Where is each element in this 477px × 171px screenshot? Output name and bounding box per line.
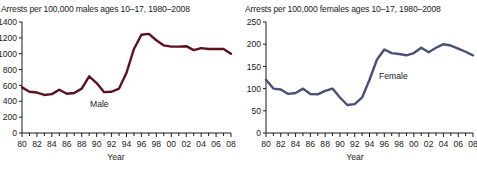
x-tick-label: 08 xyxy=(468,139,477,149)
x-tick-label: 04 xyxy=(196,139,206,149)
x-tick-label: 00 xyxy=(409,139,419,149)
x-axis-label-male: Year xyxy=(0,152,232,162)
x-tick-label: 88 xyxy=(77,139,87,149)
x-tick-label: 86 xyxy=(62,139,72,149)
x-tick-label: 02 xyxy=(424,139,434,149)
x-tick-label: 84 xyxy=(291,139,301,149)
y-tick-label: 1000 xyxy=(0,49,17,59)
y-tick-label: 800 xyxy=(3,65,18,75)
y-tick-label: 1200 xyxy=(0,33,17,43)
data-line xyxy=(22,34,231,95)
series-annotation-female: Female xyxy=(379,71,408,81)
x-tick-label: 06 xyxy=(453,139,463,149)
y-tick-label: 250 xyxy=(247,17,262,27)
x-tick-label: 98 xyxy=(394,139,404,149)
x-tick-label: 82 xyxy=(276,139,286,149)
x-tick-label: 92 xyxy=(107,139,117,149)
y-tick-label: 1400 xyxy=(0,17,17,27)
x-tick-label: 96 xyxy=(380,139,390,149)
x-tick-label: 80 xyxy=(17,139,27,149)
x-tick-label: 04 xyxy=(439,139,449,149)
chart-panel-female: Arrests per 100,000 females ages 10–17, … xyxy=(236,0,477,171)
y-tick-label: 150 xyxy=(247,62,262,72)
x-tick-label: 98 xyxy=(152,139,162,149)
series-annotation-male: Male xyxy=(90,99,109,109)
x-tick-label: 86 xyxy=(306,139,316,149)
y-tick-label: 50 xyxy=(251,106,261,116)
chart-panel-male: Arrests per 100,000 males ages 10–17, 19… xyxy=(0,0,236,171)
x-tick-label: 80 xyxy=(261,139,271,149)
x-axis-label-female: Year xyxy=(236,152,474,162)
plot-area-male: 0200400600800100012001400808284868890929… xyxy=(0,0,236,171)
y-tick-label: 600 xyxy=(3,81,18,91)
x-tick-label: 90 xyxy=(335,139,345,149)
x-tick-label: 96 xyxy=(137,139,147,149)
x-tick-label: 08 xyxy=(226,139,236,149)
figure-root: Arrests per 100,000 males ages 10–17, 19… xyxy=(0,0,477,171)
y-tick-label: 100 xyxy=(247,84,262,94)
x-tick-label: 90 xyxy=(92,139,102,149)
y-tick-label: 0 xyxy=(12,128,17,138)
x-tick-label: 84 xyxy=(47,139,57,149)
x-tick-label: 88 xyxy=(320,139,330,149)
y-tick-label: 200 xyxy=(3,112,18,122)
x-tick-label: 06 xyxy=(211,139,221,149)
x-tick-label: 82 xyxy=(32,139,42,149)
data-line xyxy=(266,44,473,105)
y-tick-label: 0 xyxy=(256,128,261,138)
x-tick-label: 00 xyxy=(167,139,177,149)
x-tick-label: 02 xyxy=(181,139,191,149)
x-tick-label: 94 xyxy=(365,139,375,149)
x-tick-label: 92 xyxy=(350,139,360,149)
plot-area-female: 0501001502002508082848688909294969800020… xyxy=(236,0,477,171)
y-tick-label: 200 xyxy=(247,39,262,49)
x-tick-label: 94 xyxy=(122,139,132,149)
y-tick-label: 400 xyxy=(3,96,18,106)
